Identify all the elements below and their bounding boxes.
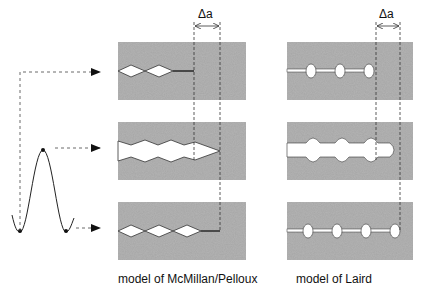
mp-delta-label: Δa: [198, 7, 213, 21]
laird-panel-2: [287, 122, 413, 180]
laird-column: [287, 22, 413, 260]
fatigue-crack-growth-diagram: [0, 0, 423, 299]
point-max: [41, 148, 45, 152]
mp-panel-3: [118, 202, 246, 260]
mp-panel-2: [118, 122, 246, 180]
caption-laird: model of Laird: [296, 272, 372, 286]
laird-delta-label: Δa: [379, 7, 394, 21]
mp-panel-1: [118, 42, 246, 100]
laird-panel-1: [287, 42, 413, 100]
caption-mcmillan-pelloux: model of McMillan/Pelloux: [118, 272, 257, 286]
load-cycle-graph: [12, 72, 100, 233]
connector-top: [20, 72, 100, 231]
mcmillan-pelloux-column: [118, 22, 246, 260]
sine-wave: [12, 150, 74, 232]
laird-panel-3: [287, 202, 413, 260]
point-min-right: [64, 229, 68, 233]
